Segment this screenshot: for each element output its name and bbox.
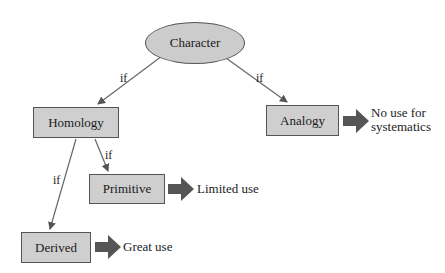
node-homology: Homology	[33, 107, 119, 138]
node-character: Character	[145, 22, 245, 64]
edge-label-primitive: if	[105, 148, 112, 163]
edge-label-analogy: if	[256, 71, 263, 86]
node-derived: Derived	[21, 232, 91, 263]
outcome-analogy-line2: systematics	[371, 120, 431, 134]
node-derived-label: Derived	[35, 240, 77, 256]
node-analogy-label: Analogy	[280, 113, 325, 129]
fat-arrow-icon	[168, 176, 194, 202]
outcome-primitive: Limited use	[197, 182, 259, 196]
node-primitive-label: Primitive	[103, 181, 151, 197]
edge-label-homology: if	[120, 71, 127, 86]
fat-arrow-icon	[95, 234, 121, 260]
node-homology-label: Homology	[48, 115, 104, 131]
fat-arrow-icon	[343, 108, 369, 134]
node-character-label: Character	[170, 35, 221, 51]
edge-character-homology	[98, 56, 162, 104]
node-primitive: Primitive	[89, 174, 165, 204]
node-analogy: Analogy	[266, 105, 339, 136]
outcome-derived: Great use	[123, 240, 172, 254]
outcome-analogy-line1: No use for	[371, 106, 431, 120]
outcome-analogy: No use for systematics	[371, 106, 431, 134]
edge-label-derived: if	[53, 173, 60, 188]
